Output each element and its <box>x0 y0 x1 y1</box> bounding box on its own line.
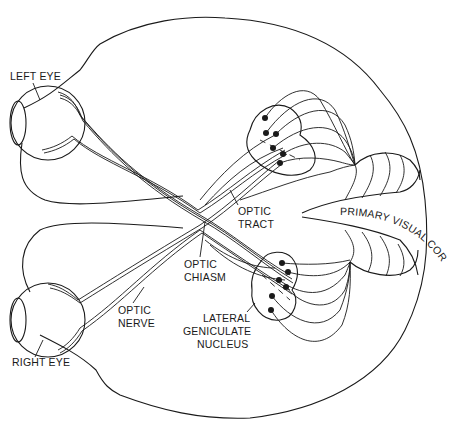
svg-text:OPTIC: OPTIC <box>238 205 271 217</box>
label-lateral-geniculate-nucleus: LATERAL GENICULATE NUCLEUS <box>183 303 255 350</box>
svg-text:CHIASM: CHIASM <box>184 271 226 283</box>
svg-text:TRACT: TRACT <box>238 218 274 230</box>
lateral-geniculate-nucleus-lower <box>252 252 298 320</box>
svg-text:GENICULATE: GENICULATE <box>183 325 251 337</box>
svg-text:NUCLEUS: NUCLEUS <box>197 338 249 350</box>
svg-text:LATERAL: LATERAL <box>203 312 250 324</box>
svg-text:NERVE: NERVE <box>118 317 155 329</box>
svg-text:OPTIC: OPTIC <box>184 258 217 270</box>
svg-text:RIGHT EYE: RIGHT EYE <box>12 356 70 368</box>
right-eye <box>10 283 85 357</box>
svg-text:OPTIC: OPTIC <box>118 304 151 316</box>
optic-radiations-lower <box>271 260 350 341</box>
svg-text:LEFT EYE: LEFT EYE <box>10 70 61 82</box>
label-left-eye: LEFT EYE <box>10 70 61 100</box>
visual-pathway-diagram: LEFT EYE RIGHT EYE OPTIC NERVE OPTIC CHI… <box>0 0 462 425</box>
left-eye <box>10 86 85 160</box>
